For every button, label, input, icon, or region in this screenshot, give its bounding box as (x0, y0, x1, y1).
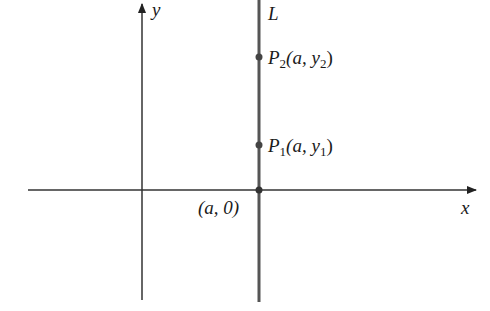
point-P2-label: P2(a, y2) (268, 48, 333, 70)
line-L-label: L (268, 4, 279, 23)
point-P1-name: P (268, 135, 280, 156)
point-P1 (256, 142, 263, 149)
coordinate-diagram (0, 0, 490, 311)
point-P1-coords-close: ) (326, 135, 332, 156)
point-P2-name: P (268, 47, 280, 68)
intercept-label: (a, 0) (198, 198, 239, 217)
point-P1-coords: (a, y (286, 135, 320, 156)
point-P2-coords: (a, y (286, 47, 320, 68)
point-P2 (256, 54, 263, 61)
point-P1-label: P1(a, y1) (268, 136, 333, 158)
y-axis-label: y (152, 0, 160, 19)
point-P2-coords-close: ) (326, 47, 332, 68)
point-a0 (256, 187, 263, 194)
x-axis-label: x (461, 198, 469, 217)
